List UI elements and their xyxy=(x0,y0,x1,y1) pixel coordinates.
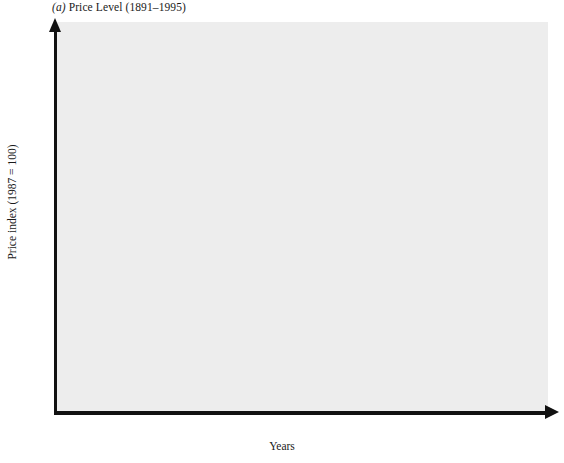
chart-title-prefix: (a) xyxy=(52,1,66,13)
y-axis-line xyxy=(54,30,57,415)
x-axis-arrow-icon xyxy=(545,405,559,419)
chart-title: (a) Price Level (1891–1995) xyxy=(52,1,186,13)
y-axis-title: Price index (1987 = 100) xyxy=(6,112,18,292)
bars-container xyxy=(56,22,548,413)
y-axis-arrow-icon xyxy=(49,18,61,32)
plot-area xyxy=(56,22,548,413)
x-axis-line xyxy=(56,411,548,415)
chart-title-text: Price Level (1891–1995) xyxy=(66,1,186,13)
x-axis-title: Years xyxy=(0,440,564,452)
price-level-chart-figure: (a) Price Level (1891–1995) Price index … xyxy=(0,0,564,463)
